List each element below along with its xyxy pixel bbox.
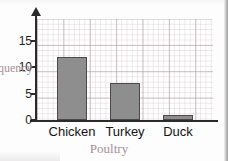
page-edge-bottom-left xyxy=(0,151,60,161)
y-axis-tick-label-0: 0 xyxy=(6,114,32,126)
x-axis-line xyxy=(30,120,218,122)
bar-turkey xyxy=(110,83,140,120)
x-axis-tick-label-turkey: Turkey xyxy=(97,124,153,139)
y-axis-tick-label-15: 15 xyxy=(6,35,32,47)
y-axis-tick-label-5: 5 xyxy=(6,88,32,100)
bar-chicken xyxy=(57,57,87,120)
y-axis-arrow-icon xyxy=(31,7,41,16)
chart-screenshot: 0 5 10 15 Chicken Turkey Duck Poultry Fr… xyxy=(0,0,228,161)
y-axis-title-clipped: Frequency xyxy=(0,61,33,75)
page-edge-top xyxy=(0,0,228,6)
x-axis-tick-label-duck: Duck xyxy=(152,124,204,139)
x-axis-tick-label-chicken: Chicken xyxy=(41,124,103,139)
page-edge-right xyxy=(224,0,228,161)
bar-duck xyxy=(163,115,193,120)
